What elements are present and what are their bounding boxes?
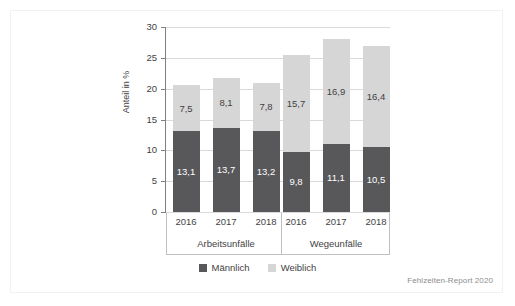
bar-value-label-maennlich: 13,7 (213, 165, 240, 175)
bar-value-label-maennlich: 10,5 (363, 175, 390, 185)
category-label-year: 2016 (276, 217, 316, 227)
bar-value-label-weiblich: 7,5 (173, 104, 200, 114)
y-axis-tick-label-wrap: 25 (127, 53, 157, 63)
bar-value-label-weiblich: 16,9 (323, 87, 350, 97)
legend-label: Weiblich (281, 262, 317, 273)
category-axis: 201620172018201620172018 ArbeitsunfälleW… (166, 213, 390, 255)
y-axis-tick-label: 30 (131, 22, 157, 32)
bar-value-label-maennlich: 9,8 (283, 177, 310, 187)
chart-figure: Anteil in % 051015202530 13,17,513,78,11… (0, 0, 515, 306)
category-label-group: Wegeunfälle (286, 239, 386, 249)
bar-value-label-maennlich: 11,1 (323, 173, 350, 183)
legend-swatch-icon (199, 264, 207, 272)
bar-value-label-maennlich: 13,1 (173, 167, 200, 177)
y-axis-tick-label: 0 (131, 207, 157, 217)
bar-stack: 13,78,1 (213, 27, 240, 212)
category-label-year: 2016 (166, 217, 206, 227)
bar-value-label-weiblich: 8,1 (213, 98, 240, 108)
legend-item[interactable]: Weiblich (268, 262, 317, 273)
bar-stack: 10,516,4 (363, 27, 390, 212)
legend-item[interactable]: Männlich (199, 262, 250, 273)
y-axis-tick-label-wrap: 5 (127, 176, 157, 186)
y-axis-tick-label: 15 (131, 115, 157, 125)
legend-swatch-icon (268, 264, 276, 272)
y-axis-tick-label-wrap: 10 (127, 145, 157, 155)
y-axis-tick-label: 20 (131, 84, 157, 94)
bar-stack: 11,116,9 (323, 27, 350, 212)
bar-value-label-maennlich: 13,2 (253, 167, 280, 177)
y-axis-tick-label: 25 (131, 53, 157, 63)
y-axis-tick-label-wrap: 20 (127, 84, 157, 94)
bar-stack: 9,815,7 (283, 27, 310, 212)
plot-area: 13,17,513,78,113,27,89,815,711,116,910,5… (166, 27, 390, 212)
legend-label: Männlich (212, 262, 250, 273)
chart-legend: MännlichWeiblich (0, 262, 515, 273)
y-axis-tick-label: 5 (131, 176, 157, 186)
bar-value-label-weiblich: 16,4 (363, 92, 390, 102)
y-axis-tick-label-wrap: 30 (127, 22, 157, 32)
bar-stack: 13,17,5 (173, 27, 200, 212)
bar-value-label-weiblich: 15,7 (283, 99, 310, 109)
y-axis-tick-label-wrap: 15 (127, 115, 157, 125)
y-axis-tick-label: 10 (131, 145, 157, 155)
bar-value-label-weiblich: 7,8 (253, 102, 280, 112)
category-label-year: 2018 (356, 217, 396, 227)
y-axis-tick-label-wrap: 0 (127, 207, 157, 217)
category-label-year: 2017 (206, 217, 246, 227)
category-label-year: 2017 (316, 217, 356, 227)
bar-stack: 13,27,8 (253, 27, 280, 212)
category-label-group: Arbeitsunfälle (176, 239, 276, 249)
source-note: Fehlzeiten-Report 2020 (407, 276, 493, 285)
